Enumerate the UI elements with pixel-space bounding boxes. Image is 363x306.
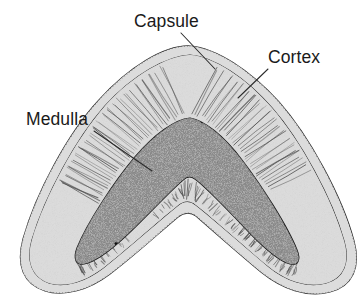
cross-section-illustration: Capsule Cortex Medulla: [0, 0, 363, 306]
medulla-label: Medulla: [26, 109, 88, 129]
capsule-label: Capsule: [134, 11, 199, 31]
anatomy-figure: Capsule Cortex Medulla: [0, 0, 363, 306]
cortex-label: Cortex: [268, 47, 320, 67]
